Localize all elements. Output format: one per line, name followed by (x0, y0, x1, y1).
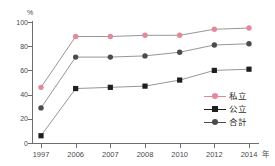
data-point (73, 86, 78, 91)
legend-marker-circle-icon (212, 119, 218, 125)
legend-swatch-icon (204, 91, 226, 102)
legend-marker-square-icon (212, 106, 218, 112)
x-axis-tick (110, 144, 111, 148)
legend-marker-circle-icon (212, 93, 218, 99)
y-axis-tick-label: 40 (4, 91, 28, 98)
data-point (212, 68, 217, 73)
data-point (108, 34, 113, 39)
data-point (212, 27, 217, 32)
x-axis-tick (76, 144, 77, 148)
data-point (108, 54, 113, 59)
x-axis-tick-label: 2014 (229, 150, 269, 159)
legend-swatch-icon (204, 104, 226, 115)
chart-container: % 年 020406080100 19972006200720082010201… (0, 0, 275, 166)
data-point (142, 33, 147, 38)
data-point (73, 54, 78, 59)
x-axis-tick (214, 144, 215, 148)
chart-legend: 私立公立合計 (204, 90, 270, 129)
data-point (212, 42, 217, 47)
legend-swatch-icon (204, 117, 226, 128)
legend-item-合計[interactable]: 合計 (204, 116, 270, 129)
data-point (38, 105, 43, 110)
x-axis-tick (249, 144, 250, 148)
legend-item-公立[interactable]: 公立 (204, 103, 270, 116)
y-axis-tick-label: 100 (4, 19, 28, 26)
data-point (246, 67, 251, 72)
y-axis-tick-label: 0 (4, 140, 28, 147)
y-axis-tick-label: 60 (4, 67, 28, 74)
legend-label: 公立 (229, 104, 247, 115)
x-axis-tick (180, 144, 181, 148)
data-point (177, 33, 182, 38)
data-point (177, 77, 182, 82)
data-point (246, 41, 251, 46)
y-axis-unit-label: % (27, 9, 33, 16)
y-axis-tick-label: 80 (4, 43, 28, 50)
data-point (73, 34, 78, 39)
legend-label: 合計 (229, 117, 247, 128)
x-axis-tick (145, 144, 146, 148)
data-point (177, 50, 182, 55)
y-axis-tick (28, 143, 33, 144)
data-point (142, 84, 147, 89)
data-point (246, 25, 251, 30)
y-axis-tick-label: 20 (4, 115, 28, 122)
x-axis-tick (41, 144, 42, 148)
data-point (142, 53, 147, 58)
legend-label: 私立 (229, 91, 247, 102)
legend-item-私立[interactable]: 私立 (204, 90, 270, 103)
data-point (108, 85, 113, 90)
data-point (38, 133, 43, 138)
data-point (38, 85, 43, 90)
